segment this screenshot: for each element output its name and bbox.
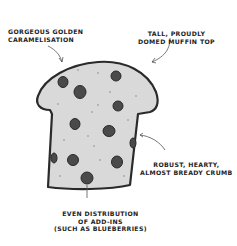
annotation-golden-caramelisation: Gorgeous golden caramelisation xyxy=(8,28,83,43)
annotation-line: domed muffin top xyxy=(138,38,215,46)
annotation-line: Gorgeous golden xyxy=(8,28,83,36)
annotation-line: Even distribution xyxy=(54,210,147,218)
annotation-domed-top: Tall, proudly domed muffin top xyxy=(138,30,215,45)
annotation-line: Robust, hearty, xyxy=(140,161,233,169)
annotation-line: Tall, proudly xyxy=(138,30,215,38)
annotation-line: (such as blueberries) xyxy=(54,225,147,233)
annotation-bready-crumb: Robust, hearty, almost bready crumb xyxy=(140,161,233,176)
annotation-line: almost bready crumb xyxy=(140,169,233,177)
annotation-add-ins: Even distribution of add-ins (such as bl… xyxy=(54,210,147,233)
annotation-line: of add-ins xyxy=(54,218,147,226)
annotation-line: caramelisation xyxy=(8,36,83,44)
